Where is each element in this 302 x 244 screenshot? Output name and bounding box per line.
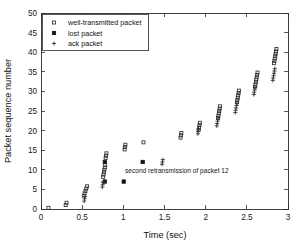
x-tick-label-5: 2.5 — [241, 213, 253, 222]
x-tick-label-0: 0 — [39, 213, 44, 222]
chart-annotation-0: second retransmission of packet 12 — [125, 167, 229, 175]
y-tick-label-9: 45 — [28, 29, 38, 38]
chart-figure: 00.511.522.53 05101520253035404550 Time … — [0, 0, 302, 244]
x-tick-label-6: 3 — [286, 213, 291, 222]
x-tick-label-1: 0.5 — [76, 213, 88, 222]
data-point-0-20 — [142, 141, 145, 144]
y-tick-label-4: 20 — [28, 127, 38, 136]
y-tick-label-8: 40 — [28, 48, 38, 57]
data-point-2-31 — [273, 67, 277, 71]
y-tick-label-7: 35 — [28, 68, 38, 77]
chart-legend: well-transmitted packetlost packetack pa… — [42, 14, 148, 50]
y-tick-label-6: 30 — [28, 87, 38, 96]
y-axis-label: Packet sequence number — [3, 59, 13, 163]
y-tick-labels: 05101520253035404550 — [28, 9, 38, 214]
scatter-plot: 00.511.522.53 05101520253035404550 Time … — [0, 0, 302, 244]
legend-label-2: ack packet — [68, 39, 102, 48]
y-tick-label-2: 10 — [28, 166, 38, 175]
y-tick-label-5: 25 — [28, 107, 38, 116]
data-point-1-0 — [103, 160, 106, 163]
y-tick-label-0: 0 — [32, 205, 37, 214]
data-point-1-3 — [122, 180, 125, 183]
annotation-layer: second retransmission of packet 12 — [125, 167, 229, 175]
x-tick-label-2: 1 — [121, 213, 126, 222]
series-well-transmitted-packet — [47, 48, 278, 210]
legend-label-0: well-transmitted packet — [67, 18, 142, 27]
y-tick-label-1: 5 — [32, 185, 37, 194]
y-tick-label-10: 50 — [28, 9, 38, 18]
data-point-2-9 — [161, 158, 165, 162]
legend-label-1: lost packet — [68, 29, 102, 38]
x-tick-labels: 00.511.522.53 — [39, 213, 291, 222]
x-tick-label-4: 2 — [203, 213, 208, 222]
legend-marker-1 — [52, 31, 55, 34]
data-series-layer — [47, 48, 278, 210]
x-tick-label-3: 1.5 — [159, 213, 171, 222]
data-point-1-2 — [141, 160, 144, 163]
y-tick-label-3: 15 — [28, 146, 38, 155]
x-axis-label: Time (sec) — [143, 230, 186, 240]
